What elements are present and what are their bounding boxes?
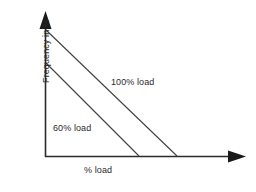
chart-plot-area [0, 0, 256, 192]
series-label-100-load: 100% load [110, 77, 155, 87]
y-axis-label: Frequency in % [41, 15, 51, 87]
arrow-right-icon [228, 151, 246, 163]
chart-figure: Frequency in % % load 100% load 60% load [0, 0, 256, 192]
x-axis-label: % load [84, 165, 112, 175]
series-label-60-load: 60% load [52, 123, 92, 133]
series-line-100-load [46, 30, 177, 156]
